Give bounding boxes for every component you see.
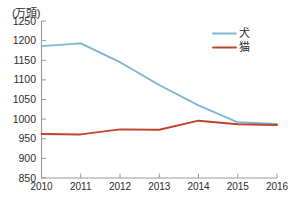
y-axis-tick-label: 1050 xyxy=(2,94,36,105)
x-axis-tick-label: 2012 xyxy=(103,182,137,192)
y-axis-tick-label: 1100 xyxy=(2,74,36,85)
x-axis-tick-label: 2011 xyxy=(64,182,98,192)
x-axis-tick-label: 2015 xyxy=(221,182,255,192)
y-axis-tick-label: 1200 xyxy=(2,35,36,46)
x-axis-tick-label: 2016 xyxy=(260,182,289,192)
x-axis-tick-label: 2010 xyxy=(25,182,59,192)
legend-label-cat: 猫 xyxy=(239,42,250,53)
y-axis-tick-label: 1150 xyxy=(2,55,36,66)
y-axis-tick-label: 1000 xyxy=(2,114,36,125)
x-axis-tick-label: 2014 xyxy=(182,182,216,192)
y-axis-tick-label: 1250 xyxy=(2,16,36,27)
line-chart: (万頭) 850900950100010501100115012001250 2… xyxy=(0,0,289,197)
legend-swatch-layer xyxy=(213,34,236,48)
x-axis-tick-label: 2013 xyxy=(142,182,176,192)
y-axis-tick-label: 900 xyxy=(2,153,36,164)
series-line-dog xyxy=(42,43,278,123)
legend-label-dog: 犬 xyxy=(239,28,250,39)
y-axis-tick-label: 950 xyxy=(2,133,36,144)
series-layer xyxy=(42,43,278,134)
